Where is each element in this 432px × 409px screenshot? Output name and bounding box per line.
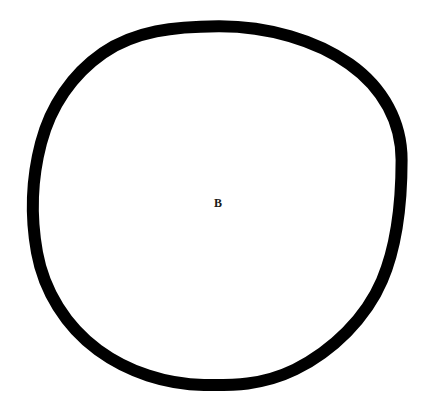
region-label-b: B [214, 197, 222, 209]
figure-canvas: B [0, 0, 432, 409]
